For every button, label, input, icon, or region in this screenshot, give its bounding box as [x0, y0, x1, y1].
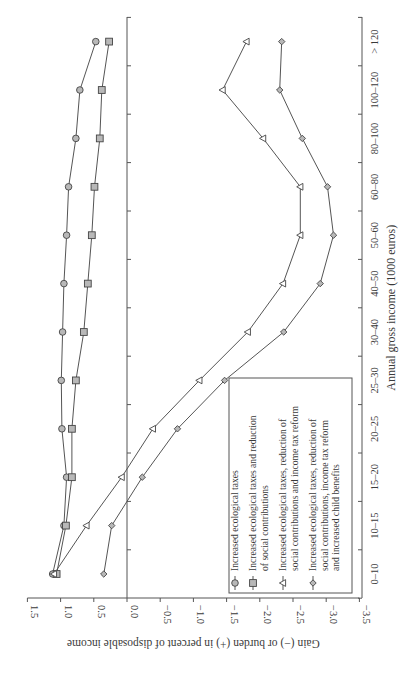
legend-item-text: social contributions and income tax refo…	[289, 406, 300, 571]
category-axis-title: Annual gross income (1000 euros)	[384, 225, 398, 391]
triangle-marker	[279, 280, 285, 287]
square-marker	[98, 87, 105, 94]
square-marker	[72, 377, 79, 384]
category-label: > 120	[369, 29, 380, 53]
circle-marker	[61, 280, 68, 287]
category-label: 10–15	[369, 512, 380, 538]
circle-marker	[58, 377, 65, 384]
category-label: 25–30	[369, 367, 380, 393]
series-circle	[49, 38, 99, 577]
category-label: 15–20	[369, 464, 380, 490]
category-label: 50–60	[369, 222, 380, 248]
legend: Increased ecological taxesIncreased ecol…	[229, 378, 352, 593]
circle-marker	[65, 184, 72, 191]
category-label: 20–25	[369, 416, 380, 442]
circle-marker	[92, 38, 99, 45]
legend-item-text: social contributions, income tax reform	[319, 419, 330, 571]
value-axis-title: Gain (−) or burden (+) in percent of dis…	[67, 637, 320, 650]
legend-item-text: Increased ecological taxes	[229, 470, 240, 571]
diamond-marker	[299, 135, 305, 141]
square-marker	[88, 232, 95, 239]
triangle-marker	[243, 38, 249, 45]
legend-item-text: of social contributions	[259, 485, 270, 571]
legend-item-text: Increased ecological taxes, reduction of	[307, 418, 318, 571]
legend-item-text: Increased ecological taxes, reduction of	[277, 418, 288, 571]
legend-item-text: Increased ecological taxes and reduction	[247, 415, 258, 571]
triangle-marker	[83, 522, 89, 529]
square-marker	[63, 522, 70, 529]
category-label: 100–120	[369, 72, 380, 109]
value-tick-label: −3.5	[361, 605, 372, 624]
diamond-marker	[279, 38, 285, 44]
circle-marker	[63, 232, 70, 239]
value-tick-label: −2.5	[295, 605, 306, 624]
triangle-marker	[118, 474, 124, 481]
diamond-marker	[330, 232, 336, 238]
category-label: 80–100	[369, 123, 380, 155]
square-marker	[68, 474, 75, 481]
legend-circle-icon	[232, 580, 239, 587]
series-square	[53, 38, 112, 577]
square-marker	[68, 425, 75, 432]
value-tick-label: −2.0	[262, 605, 273, 624]
value-tick-label: 1.5	[29, 605, 40, 618]
diamond-marker	[101, 571, 107, 577]
category-label: 30–40	[369, 319, 380, 345]
square-marker	[84, 280, 91, 287]
category-label: 0–10	[369, 564, 380, 585]
circle-marker	[77, 87, 84, 94]
diamond-marker	[277, 87, 283, 93]
category-label: 40–50	[369, 270, 380, 296]
value-tick-label: −3.0	[328, 605, 339, 624]
circle-marker	[59, 426, 66, 433]
value-tick-label: 0.5	[96, 605, 107, 618]
circle-marker	[59, 329, 66, 336]
value-tick-label: 0.0	[129, 605, 140, 618]
value-tick-label: −1.5	[229, 605, 240, 624]
diamond-marker	[109, 522, 115, 528]
series-line	[53, 42, 96, 574]
square-marker	[91, 183, 98, 190]
triangle-marker	[149, 425, 155, 432]
triangle-marker	[260, 135, 266, 142]
value-tick-label: −0.5	[162, 605, 173, 624]
diamond-marker	[324, 184, 330, 190]
series-line	[57, 42, 110, 574]
legend-item-text: and increased child benefits	[330, 464, 341, 571]
legend-square-icon	[250, 580, 257, 587]
square-marker	[96, 135, 103, 142]
value-tick-label: −1.0	[195, 605, 206, 624]
triangle-marker	[219, 87, 225, 94]
rotated-line-chart: Increased ecological taxesIncreased ecol…	[0, 0, 402, 673]
square-marker	[80, 329, 87, 336]
value-tick-label: 1.0	[63, 605, 74, 618]
square-marker	[106, 38, 113, 45]
category-label: 60–80	[369, 174, 380, 200]
circle-marker	[73, 135, 80, 142]
